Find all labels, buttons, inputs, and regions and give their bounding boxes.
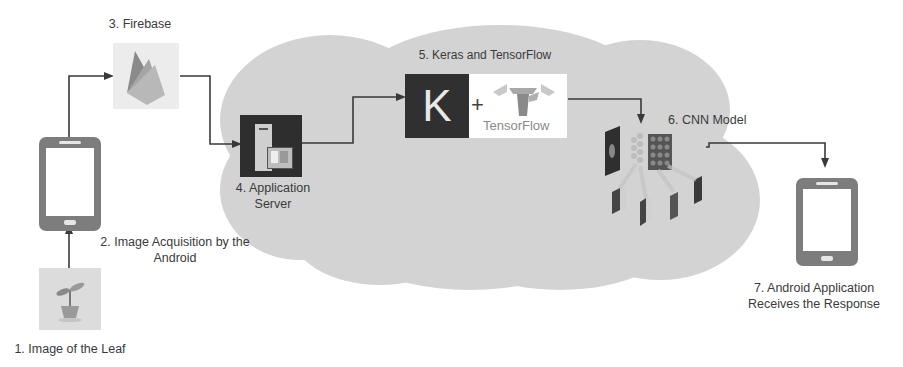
keras-tensorflow-label: 5. Keras and TensorFlow bbox=[400, 47, 570, 63]
firebase-icon bbox=[113, 43, 179, 109]
firebase-label: 3. Firebase bbox=[102, 16, 178, 32]
server-icon bbox=[240, 115, 302, 177]
cnn-model-icon bbox=[600, 122, 710, 227]
tensorflow-icon: + TensorFlow bbox=[469, 74, 567, 138]
android-response-label: 7. Android Application Receives the Resp… bbox=[724, 280, 903, 312]
application-server-label: 4. Application Server bbox=[218, 180, 328, 212]
smartphone-icon bbox=[39, 137, 101, 231]
image-of-leaf-label: 1. Image of the Leaf bbox=[0, 341, 140, 357]
smartphone-response-icon bbox=[796, 178, 858, 266]
leaf-plant-icon bbox=[39, 268, 101, 330]
keras-icon: K bbox=[405, 74, 469, 138]
image-acquisition-label: 2. Image Acquisition by the Android bbox=[85, 234, 265, 266]
